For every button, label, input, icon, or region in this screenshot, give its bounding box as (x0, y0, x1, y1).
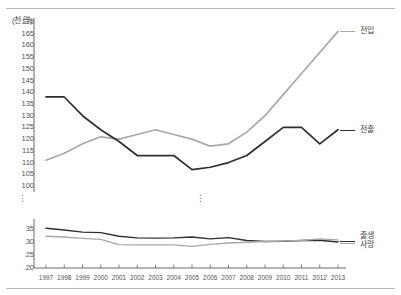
legend-swatch-사망 (340, 243, 355, 244)
y-tick-130: 130 (8, 112, 34, 119)
x-tick-2012: 2012 (313, 274, 327, 281)
y-tick-135: 135 (8, 100, 34, 107)
y-axis-tick-labels: 1701651601551501451401351301251201151101… (6, 0, 34, 295)
x-tick-2000: 2000 (94, 274, 108, 281)
legend-label-사망: 사망 (360, 240, 374, 249)
x-tick-2002: 2002 (130, 274, 144, 281)
x-tick-2009: 2009 (258, 274, 272, 281)
legend-label-출생: 출생 (360, 231, 374, 240)
y-tick-105: 105 (8, 170, 34, 177)
y-tick-160: 160 (8, 41, 34, 48)
x-tick-2001: 2001 (112, 274, 126, 281)
y-tick-155: 155 (8, 53, 34, 60)
legend-label-전입: 전입 (360, 26, 374, 35)
x-tick-1998: 1998 (57, 274, 71, 281)
x-tick-2011: 2011 (295, 274, 309, 281)
y-tick-165: 165 (8, 30, 34, 37)
y-tick-150: 150 (8, 65, 34, 72)
y-tick-170: 170 (8, 18, 34, 25)
y-tick-100: 100 (8, 182, 34, 189)
plot-area (36, 22, 346, 272)
bottom-divider (6, 288, 395, 289)
y-tick-125: 125 (8, 123, 34, 130)
axis-break-mark-2: ⋮ (196, 196, 205, 200)
population-line-chart: (천 명) 1701651601551501451401351301251201… (0, 0, 401, 295)
x-tick-2008: 2008 (240, 274, 254, 281)
x-tick-2010: 2010 (276, 274, 290, 281)
top-divider (6, 8, 395, 9)
x-tick-2007: 2007 (221, 274, 235, 281)
series-lines (36, 22, 346, 272)
y-tick-25: 25 (8, 251, 34, 258)
y-tick-140: 140 (8, 88, 34, 95)
series-line-출생 (46, 228, 338, 242)
x-tick-2004: 2004 (167, 274, 181, 281)
legend-label-전출: 전출 (360, 125, 374, 134)
x-tick-2003: 2003 (148, 274, 162, 281)
series-line-전출 (46, 97, 338, 170)
x-tick-2005: 2005 (185, 274, 199, 281)
y-tick-110: 110 (8, 159, 34, 166)
legend-swatch-전입 (340, 31, 355, 32)
legend-swatch-출생 (340, 241, 355, 242)
series-line-전입 (46, 31, 338, 160)
y-tick-120: 120 (8, 135, 34, 142)
y-tick-35: 35 (8, 225, 34, 232)
y-tick-20: 20 (8, 264, 34, 271)
x-axis-tick-labels: 1997199819992000200120022003200420052006… (36, 274, 346, 288)
y-tick-30: 30 (8, 238, 34, 245)
legend-swatch-전출 (340, 130, 355, 131)
x-tick-1997: 1997 (39, 274, 53, 281)
x-tick-2006: 2006 (203, 274, 217, 281)
x-tick-2013: 2013 (331, 274, 345, 281)
y-tick-115: 115 (8, 147, 34, 154)
x-tick-1999: 1999 (75, 274, 89, 281)
y-tick-145: 145 (8, 77, 34, 84)
axis-break-mark-1: ⋮ (18, 196, 27, 200)
